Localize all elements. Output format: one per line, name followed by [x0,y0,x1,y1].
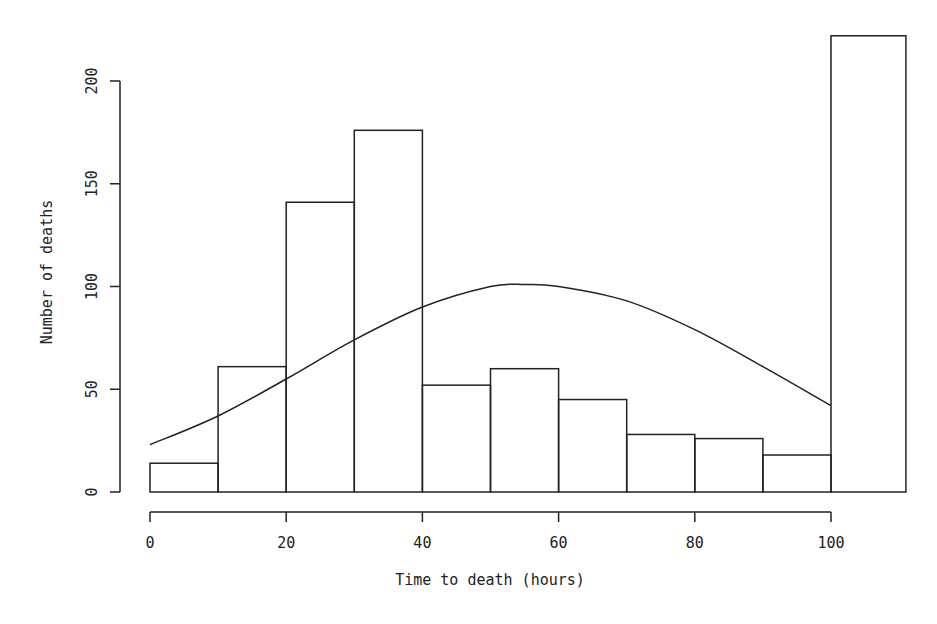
histogram-bar [150,463,218,492]
x-tick-label: 0 [145,534,154,552]
y-tick-label: 50 [83,380,101,398]
histogram-bar [763,455,831,492]
x-tick-label: 20 [277,534,295,552]
y-axis-label: Number of deaths [38,200,56,345]
y-tick-label: 200 [83,67,101,94]
x-axis: 020406080100 [145,512,844,552]
histogram-bar [286,202,354,492]
histogram-bar [695,439,763,492]
y-axis: 050100150200 [83,67,120,496]
histogram-chart: 050100150200 020406080100 Time to death … [0,0,937,624]
y-tick-label: 100 [83,273,101,300]
x-axis-label: Time to death (hours) [395,571,585,589]
y-tick-label: 0 [83,487,101,496]
histogram-bar [627,434,695,492]
histogram-bars [150,36,906,492]
histogram-bar [491,369,559,492]
x-tick-label: 40 [413,534,431,552]
histogram-bar [831,36,906,492]
histogram-bar [422,385,490,492]
x-tick-label: 80 [686,534,704,552]
y-tick-label: 150 [83,170,101,197]
histogram-bar [559,400,627,492]
x-tick-label: 60 [550,534,568,552]
x-tick-label: 100 [817,534,844,552]
